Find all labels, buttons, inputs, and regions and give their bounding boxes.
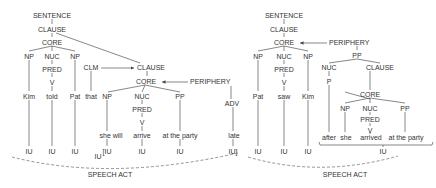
word: she will [100, 132, 123, 139]
v-node: V [282, 79, 287, 86]
iu-label: IU [95, 153, 102, 160]
word: that [85, 93, 97, 100]
np-node: NP [24, 53, 34, 60]
periphery-node: PERIPHERY [329, 39, 370, 46]
np-node: NP [340, 105, 350, 112]
v-node: V [140, 119, 145, 126]
nuc-node: NUC [134, 93, 149, 100]
word: Pat [253, 93, 264, 100]
iu-label: IU [305, 148, 312, 155]
nuc-node: NUC [321, 64, 336, 71]
diagram-canvas: SENTENCE CLAUSE CORE NP NUC NP PRED V CL… [0, 0, 436, 188]
iu-label: IU [139, 148, 146, 155]
v-node: V [368, 127, 373, 134]
iu-label: IU [26, 148, 33, 155]
iu-label: IU [49, 148, 56, 155]
clause-node: CLAUSE [270, 26, 298, 33]
iu-label: IU [281, 148, 288, 155]
left-tree: SENTENCE CLAUSE CORE NP NUC NP PRED V CL… [12, 12, 240, 178]
word: arrived [360, 134, 382, 141]
right-tree: SENTENCE CLAUSE CORE PERIPHERY NP NUC NP… [248, 12, 433, 178]
iu-label: IU [380, 148, 387, 155]
v-node: V [50, 79, 55, 86]
word: Kim [302, 93, 314, 100]
speech-act-label: SPEECH ACT [88, 171, 133, 178]
pred-node: PRED [132, 106, 151, 113]
word: at the party [388, 134, 424, 142]
core-node: CORE [360, 91, 381, 98]
iu-label: [IU [103, 148, 112, 156]
iu-label: IU [255, 148, 262, 155]
pred-node: PRED [274, 66, 293, 73]
word: late [228, 132, 239, 139]
clause-node: CLAUSE [366, 64, 394, 71]
periphery-node: PERIPHERY [190, 78, 231, 85]
pp-node: PP [175, 93, 185, 100]
np-node: NP [102, 93, 112, 100]
adv-node: ADV [225, 100, 240, 107]
sentence-node: SENTENCE [33, 12, 71, 19]
pred-node: PRED [42, 66, 61, 73]
clm-node: CLM [84, 64, 99, 71]
nuc-node: NUC [362, 105, 377, 112]
clause-node: CLAUSE [137, 64, 165, 71]
core-node: CORE [274, 39, 295, 46]
word: at the party [162, 132, 198, 140]
word: after [322, 134, 337, 141]
word: Kim [23, 93, 35, 100]
clause-node: CLAUSE [38, 26, 66, 33]
pred-node: PRED [360, 116, 379, 123]
speech-act-label: SPEECH ACT [323, 171, 368, 178]
pp-node: PP [400, 105, 410, 112]
word: she [340, 134, 351, 141]
nuc-node: NUC [276, 53, 291, 60]
pp-node: PP [352, 52, 362, 59]
word: Pat [70, 93, 81, 100]
iu-label: IU [72, 148, 79, 155]
iu-label: IU [177, 148, 184, 155]
word: told [46, 93, 57, 100]
iu-label: IU] [229, 148, 238, 156]
core-node: CORE [42, 39, 63, 46]
np-node: NP [253, 53, 263, 60]
sentence-node: SENTENCE [265, 12, 303, 19]
word: saw [278, 93, 291, 100]
word: arrive [133, 132, 151, 139]
np-node: NP [303, 53, 313, 60]
p-node: P [327, 78, 332, 85]
np-node: NP [70, 53, 80, 60]
nuc-node: NUC [44, 53, 59, 60]
core-node: CORE [136, 78, 157, 85]
